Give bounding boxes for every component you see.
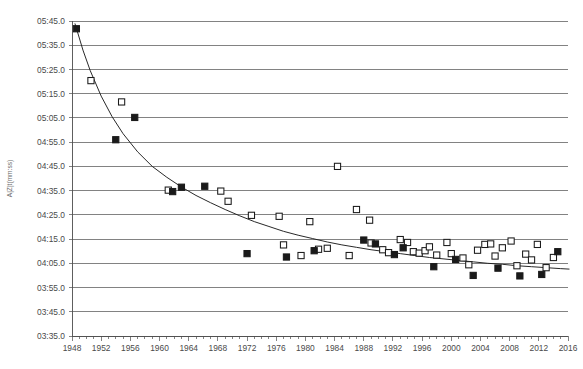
data-point <box>474 247 480 253</box>
data-point <box>380 247 386 253</box>
data-point <box>460 255 466 261</box>
data-point <box>400 245 406 251</box>
data-point <box>528 257 534 263</box>
y-tick-label: 04:35.0 <box>37 186 65 196</box>
data-point <box>119 99 125 105</box>
x-tick-label: 1972 <box>238 343 257 353</box>
x-tick-label: 2004 <box>471 343 490 353</box>
data-point <box>307 219 313 225</box>
data-point <box>248 212 254 218</box>
x-tick-label: 1980 <box>296 343 315 353</box>
y-tick-label: 04:05.0 <box>37 258 65 268</box>
data-point <box>218 188 224 194</box>
y-tick-label: 04:45.0 <box>37 161 65 171</box>
data-point <box>397 236 403 242</box>
y-axis-title: A|Z|t(mm:ss) <box>6 160 14 198</box>
x-tick-label: 1960 <box>150 343 169 353</box>
y-tick-label: 04:55.0 <box>37 137 65 147</box>
data-point <box>385 250 391 256</box>
x-tick-label: 1992 <box>384 343 403 353</box>
data-point <box>470 272 476 278</box>
x-tick-label: 1948 <box>63 343 82 353</box>
x-tick-label: 1968 <box>209 343 228 353</box>
data-point <box>492 253 498 259</box>
x-tick-label: 1952 <box>92 343 111 353</box>
data-point <box>539 271 545 277</box>
x-tick-label: 2008 <box>500 343 519 353</box>
data-point <box>499 245 505 251</box>
y-tick-label: 03:35.0 <box>37 331 65 341</box>
chart-container: 05:45.005:35.005:25.005:15.005:05.004:55… <box>0 0 583 369</box>
data-point <box>334 163 340 169</box>
data-point <box>372 241 378 247</box>
data-point <box>283 254 289 260</box>
y-tick-label: 05:25.0 <box>37 65 65 75</box>
scatter-plot: 05:45.005:35.005:25.005:15.005:05.004:55… <box>0 0 583 369</box>
y-tick-label: 04:15.0 <box>37 234 65 244</box>
data-point <box>434 252 440 258</box>
data-point <box>448 251 454 257</box>
y-tick-label: 05:45.0 <box>37 16 65 26</box>
data-point <box>495 265 501 271</box>
chart-background <box>0 0 583 369</box>
data-point <box>276 213 282 219</box>
y-tick-label: 03:45.0 <box>37 307 65 317</box>
y-tick-label: 05:15.0 <box>37 89 65 99</box>
data-point <box>346 252 352 258</box>
x-tick-label: 1988 <box>354 343 373 353</box>
data-point <box>324 245 330 251</box>
data-point <box>416 250 422 256</box>
data-point <box>508 238 514 244</box>
data-point <box>353 206 359 212</box>
data-point <box>410 249 416 255</box>
data-point <box>298 252 304 258</box>
data-point <box>132 114 138 120</box>
data-point <box>550 254 556 260</box>
data-point <box>391 251 397 257</box>
data-point <box>523 251 529 257</box>
data-point <box>488 241 494 247</box>
data-point <box>514 263 520 269</box>
y-tick-label: 05:35.0 <box>37 40 65 50</box>
data-point <box>431 264 437 270</box>
data-point <box>280 242 286 248</box>
x-tick-label: 1984 <box>325 343 344 353</box>
data-point <box>202 183 208 189</box>
data-point <box>555 249 561 255</box>
y-tick-label: 05:05.0 <box>37 113 65 123</box>
x-tick-label: 2000 <box>442 343 461 353</box>
data-point <box>361 237 367 243</box>
x-tick-label: 2012 <box>530 343 549 353</box>
data-point <box>534 241 540 247</box>
data-point <box>466 262 472 268</box>
x-tick-label: 1964 <box>179 343 198 353</box>
data-point <box>517 273 523 279</box>
data-point <box>453 256 459 262</box>
data-point <box>113 137 119 143</box>
data-point <box>426 244 432 250</box>
y-tick-label: 03:55.0 <box>37 283 65 293</box>
x-tick-label: 1976 <box>267 343 286 353</box>
data-point <box>367 217 373 223</box>
data-point <box>178 184 184 190</box>
data-point <box>244 251 250 257</box>
data-point <box>311 248 317 254</box>
x-tick-label: 1996 <box>413 343 432 353</box>
x-tick-label: 1956 <box>121 343 140 353</box>
data-point <box>444 239 450 245</box>
data-point <box>170 188 176 194</box>
data-point <box>543 265 549 271</box>
data-point <box>482 241 488 247</box>
data-point <box>225 198 231 204</box>
x-tick-label: 2016 <box>559 343 578 353</box>
y-tick-label: 04:25.0 <box>37 210 65 220</box>
data-point <box>88 78 94 84</box>
data-point <box>73 26 79 32</box>
